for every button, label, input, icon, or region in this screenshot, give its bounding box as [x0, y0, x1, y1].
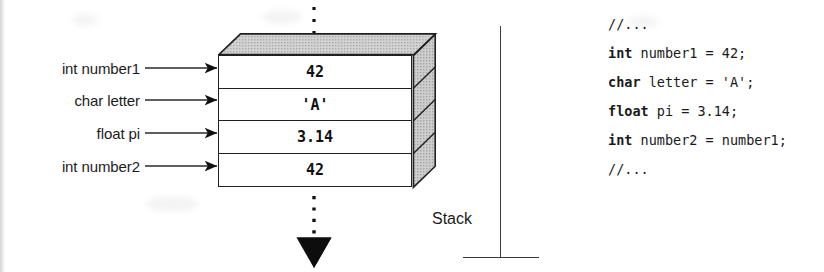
stack-cell-number1: 42	[219, 56, 411, 89]
code-line: int number1 = 42;	[608, 39, 787, 68]
stack-caption: Stack	[432, 211, 472, 227]
label-char-letter: char letter	[0, 93, 140, 108]
code-line: //...	[608, 155, 787, 184]
code-keyword: char	[608, 74, 641, 90]
stack-cell-letter: 'A'	[219, 89, 411, 122]
code-text: letter = 'A';	[641, 74, 755, 90]
label-int-number1: int number1	[0, 61, 140, 76]
code-keyword: int	[608, 45, 632, 61]
code-keyword: float	[608, 103, 649, 119]
code-line: //...	[608, 10, 787, 39]
stack-divider-vertical	[500, 26, 501, 257]
code-line: float pi = 3.14;	[608, 97, 787, 126]
stack-cell-pi: 3.14	[219, 121, 411, 154]
stack-growth-arrow	[280, 194, 350, 272]
label-float-pi: float pi	[0, 126, 140, 141]
stack-box-side-face	[411, 33, 451, 213]
code-listing: //... int number1 = 42; char letter = 'A…	[608, 10, 787, 184]
label-int-number2: int number2	[0, 159, 140, 174]
code-text: number1 = 42;	[632, 45, 746, 61]
stack-cell-number2: 42	[219, 154, 411, 187]
code-text: pi = 3.14;	[649, 103, 738, 119]
stack-cell-list: 42 'A' 3.14 42	[218, 55, 412, 187]
stack-memory-figure: int number1 char letter float pi int num…	[0, 0, 824, 272]
code-line: int number2 = number1;	[608, 126, 787, 155]
code-text: number2 = number1;	[632, 132, 786, 148]
code-text: //...	[608, 16, 649, 32]
stack-divider-baseline	[463, 257, 539, 258]
code-text: //...	[608, 161, 649, 177]
code-keyword: int	[608, 132, 632, 148]
code-line: char letter = 'A';	[608, 68, 787, 97]
variable-label-group: int number1 char letter float pi int num…	[0, 0, 230, 272]
